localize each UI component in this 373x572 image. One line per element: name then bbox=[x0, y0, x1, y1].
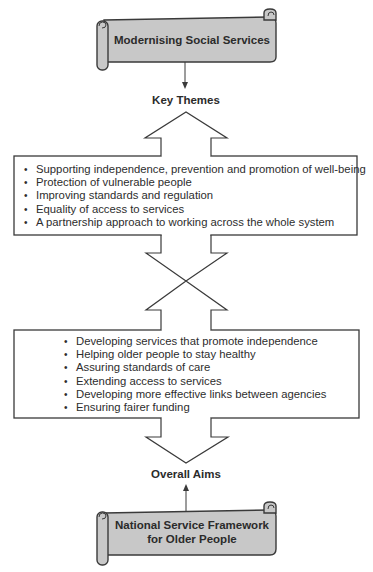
bottom-scroll-title: National Service Framework for Older Peo… bbox=[112, 518, 272, 546]
diagram-canvas bbox=[0, 0, 373, 572]
key-theme-item: •A partnership approach to working acros… bbox=[22, 216, 366, 229]
overall-aims-label: Overall Aims bbox=[131, 468, 241, 480]
key-theme-item: •Supporting independence, prevention and… bbox=[22, 163, 366, 176]
up-arrow-shape bbox=[145, 112, 227, 157]
connector-up-arrow bbox=[183, 484, 189, 511]
top-scroll-title: Modernising Social Services bbox=[112, 33, 272, 47]
middle-connector-shape bbox=[146, 235, 227, 330]
overall-aim-item: •Helping older people to stay healthy bbox=[62, 348, 326, 361]
bullet-icon: • bbox=[24, 163, 28, 176]
bullet-icon: • bbox=[64, 348, 68, 361]
overall-aim-item: •Ensuring fairer funding bbox=[62, 401, 326, 414]
key-theme-item: •Improving standards and regulation bbox=[22, 189, 366, 202]
bottom-scroll-title-line2: for Older People bbox=[112, 532, 272, 546]
key-themes-list: •Supporting independence, prevention and… bbox=[22, 163, 366, 229]
overall-aim-item: •Developing more effective links between… bbox=[62, 388, 326, 401]
bullet-icon: • bbox=[24, 203, 28, 216]
bullet-icon: • bbox=[64, 375, 68, 388]
key-themes-label: Key Themes bbox=[136, 94, 236, 106]
overall-aim-item: •Developing services that promote indepe… bbox=[62, 335, 326, 348]
bottom-scroll-title-line1: National Service Framework bbox=[112, 518, 272, 532]
overall-aims-list: •Developing services that promote indepe… bbox=[62, 335, 326, 414]
bullet-icon: • bbox=[24, 176, 28, 189]
overall-aim-item: •Assuring standards of care bbox=[62, 361, 326, 374]
bullet-icon: • bbox=[24, 216, 28, 229]
bullet-icon: • bbox=[64, 388, 68, 401]
connector-down-arrow bbox=[182, 62, 188, 89]
bullet-icon: • bbox=[64, 361, 68, 374]
key-theme-item: •Protection of vulnerable people bbox=[22, 176, 366, 189]
overall-aim-item: •Extending access to services bbox=[62, 375, 326, 388]
bullet-icon: • bbox=[24, 189, 28, 202]
bullet-icon: • bbox=[64, 401, 68, 414]
key-theme-item: •Equality of access to services bbox=[22, 203, 366, 216]
bullet-icon: • bbox=[64, 335, 68, 348]
down-arrow-shape bbox=[146, 418, 228, 463]
